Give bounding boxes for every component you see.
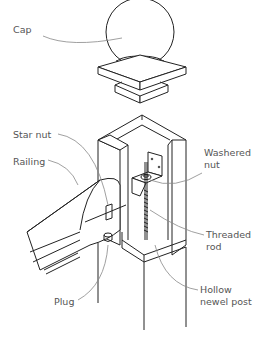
plug-label: Plug — [54, 296, 74, 307]
hollow-newel-post-label-line2: newel post — [200, 296, 252, 307]
cap-label: Cap — [13, 24, 32, 35]
railing-label: Railing — [13, 156, 45, 167]
threaded-rod-label-line1: Threaded — [206, 229, 251, 240]
star-nut-label: Star nut — [13, 129, 51, 140]
hollow-newel-post-label-line1: Hollow — [200, 284, 232, 295]
threaded-rod-label-line2: rod — [206, 241, 222, 252]
railing-illustration — [27, 178, 126, 274]
washered-nut-label-line2: nut — [204, 159, 220, 170]
cap-illustration — [98, 0, 186, 103]
washered-nut-label-line1: Washered — [204, 147, 251, 158]
